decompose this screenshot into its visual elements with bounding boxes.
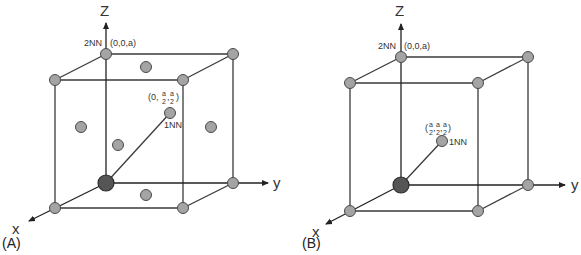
atom-corner <box>523 180 534 191</box>
atom-1nn <box>437 136 448 147</box>
1nn-bond-b <box>401 141 442 185</box>
svg-text:2: 2 <box>443 129 447 136</box>
1nn-coord-b: ( a 2 , a 2 , a 2 ) <box>425 121 451 136</box>
2nn-coord-a: (0,0,a) <box>110 38 136 48</box>
1nn-label-a: 1NN <box>164 120 182 130</box>
atom-corner <box>345 78 356 89</box>
atom-face-center <box>141 62 152 73</box>
panel-label-a: (A) <box>2 235 21 251</box>
atom-corner <box>473 78 484 89</box>
atom-corner <box>523 52 534 63</box>
atom-face-center <box>206 122 217 133</box>
1nn-coord-a: (0, a 2 , a 2 ) <box>148 90 179 105</box>
svg-text:a: a <box>170 90 174 97</box>
x-axis-b <box>326 185 401 224</box>
atom-corner <box>101 49 112 60</box>
atom-corner <box>50 203 61 214</box>
y-axis-label-a: y <box>273 174 281 191</box>
atom-corner <box>228 178 239 189</box>
atom-corner <box>396 52 407 63</box>
panel-b-bcc: Z y x 2NN (0,0,a) 1NN ( a 2 , a 2 , a 2 … <box>302 2 579 251</box>
svg-text:2: 2 <box>170 98 174 105</box>
atom-face-center <box>113 140 124 151</box>
atom-corner <box>178 203 189 214</box>
z-axis-label-b: Z <box>395 2 404 19</box>
y-axis-label-b: y <box>571 176 579 193</box>
atom-1nn <box>165 108 176 119</box>
svg-text:2: 2 <box>162 98 166 105</box>
atom-face-center <box>141 190 152 201</box>
svg-text:(: ( <box>425 123 428 133</box>
atom-corner <box>228 49 239 60</box>
atom-corner <box>345 206 356 217</box>
panel-a-fcc: Z y x 2NN (0,0,a) 1NN (0, a 2 , a 2 ) (A… <box>2 2 281 251</box>
z-axis-label-a: Z <box>100 2 109 19</box>
svg-text:a: a <box>162 90 166 97</box>
2nn-label-a: 2NN <box>84 38 102 48</box>
crystal-lattice-figure: Z y x 2NN (0,0,a) 1NN (0, a 2 , a 2 ) (A… <box>0 0 581 255</box>
panel-label-b: (B) <box>302 235 321 251</box>
2nn-coord-b: (0,0,a) <box>404 41 430 51</box>
atom-origin <box>98 175 114 191</box>
svg-text:): ) <box>448 123 451 133</box>
svg-text:(0,: (0, <box>148 92 159 102</box>
2nn-label-b: 2NN <box>378 41 396 51</box>
svg-text:): ) <box>176 92 179 102</box>
atom-origin <box>393 177 409 193</box>
atom-corner <box>473 206 484 217</box>
svg-text:a: a <box>443 121 447 128</box>
atom-corner <box>178 75 189 86</box>
atom-corner <box>50 75 61 86</box>
atom-face-center <box>76 122 87 133</box>
x-axis-a <box>29 183 106 221</box>
1nn-label-b: 1NN <box>449 137 467 147</box>
